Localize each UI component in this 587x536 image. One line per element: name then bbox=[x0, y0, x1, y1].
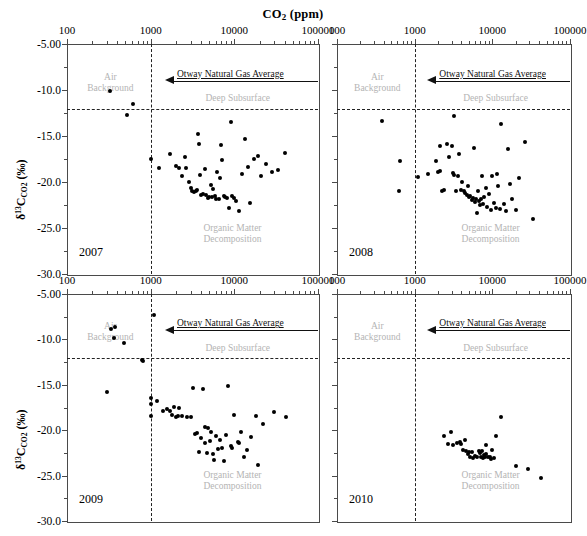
x-axis-minor-tick bbox=[558, 291, 559, 294]
x-axis-minor-tick bbox=[293, 291, 294, 294]
data-point bbox=[494, 434, 498, 438]
y-axis-minor-tick bbox=[64, 251, 67, 252]
x-axis-minor-tick bbox=[125, 291, 126, 294]
data-point bbox=[490, 448, 494, 452]
otway-arrow-head-icon bbox=[165, 326, 174, 334]
y-axis-tick bbox=[62, 476, 67, 477]
x-axis-minor-tick bbox=[539, 41, 540, 44]
data-point bbox=[196, 132, 200, 136]
data-point bbox=[475, 211, 479, 215]
x-axis-minor-tick bbox=[143, 291, 144, 294]
data-point bbox=[426, 172, 430, 176]
data-point bbox=[506, 147, 510, 151]
data-point bbox=[449, 430, 453, 434]
data-point bbox=[492, 201, 496, 205]
data-point bbox=[264, 162, 268, 166]
data-point bbox=[499, 122, 503, 126]
x-axis-tick bbox=[570, 289, 571, 294]
x-axis-minor-tick bbox=[107, 41, 108, 44]
y-axis-label-bottom-row: δ13CCO2 (‰) bbox=[14, 410, 29, 470]
data-point bbox=[256, 463, 260, 467]
data-point bbox=[490, 174, 494, 178]
y-axis-minor-tick bbox=[64, 408, 67, 409]
x-axis-minor-tick bbox=[384, 291, 385, 294]
x-axis-minor-tick bbox=[461, 41, 462, 44]
data-point bbox=[463, 438, 467, 442]
data-point bbox=[447, 155, 451, 159]
data-point bbox=[498, 207, 502, 211]
data-point bbox=[457, 152, 461, 156]
data-point bbox=[218, 176, 222, 180]
y-axis-tick bbox=[62, 44, 67, 45]
data-point bbox=[227, 206, 231, 210]
x-axis-minor-tick bbox=[452, 41, 453, 44]
x-axis-tick-label: 1000 bbox=[140, 274, 162, 286]
data-point bbox=[197, 142, 201, 146]
y-axis-tick-label: -20.0 bbox=[19, 424, 61, 436]
x-axis-minor-tick bbox=[293, 41, 294, 44]
y-axis-tick bbox=[332, 294, 337, 295]
data-point bbox=[245, 448, 249, 452]
data-point bbox=[212, 458, 216, 462]
y-axis-tick bbox=[62, 294, 67, 295]
data-point bbox=[230, 446, 234, 450]
x-axis-minor-tick bbox=[147, 291, 148, 294]
x-axis-tick bbox=[234, 289, 235, 294]
y-axis-tick bbox=[62, 521, 67, 522]
deep-subsurface-hline bbox=[337, 109, 570, 110]
otway-average-line bbox=[436, 330, 570, 331]
x-axis-minor-tick bbox=[92, 41, 93, 44]
x-axis-minor-tick bbox=[132, 291, 133, 294]
data-point bbox=[476, 189, 480, 193]
data-point bbox=[434, 159, 438, 163]
y-axis-tick bbox=[332, 90, 337, 91]
x-axis-tick bbox=[318, 39, 319, 44]
y-axis-tick bbox=[62, 385, 67, 386]
x-axis-minor-tick bbox=[117, 291, 118, 294]
otway-arrow-head-icon bbox=[427, 76, 436, 84]
x-axis-minor-tick bbox=[209, 41, 210, 44]
data-point bbox=[452, 114, 456, 118]
data-point bbox=[276, 168, 280, 172]
data-point bbox=[211, 187, 215, 191]
x-axis-minor-tick bbox=[299, 41, 300, 44]
x-axis-minor-tick bbox=[138, 291, 139, 294]
y-axis-minor-tick bbox=[334, 317, 337, 318]
x-axis-minor-tick bbox=[547, 41, 548, 44]
data-point bbox=[526, 467, 530, 471]
data-point bbox=[112, 336, 116, 340]
x-axis-minor-tick bbox=[216, 41, 217, 44]
x-axis-minor-tick bbox=[469, 291, 470, 294]
deep-subsurface: Deep Subsurface bbox=[205, 342, 270, 353]
y-axis-minor-tick bbox=[334, 205, 337, 206]
data-point bbox=[226, 384, 230, 388]
y-axis-minor-tick bbox=[334, 453, 337, 454]
data-point bbox=[438, 169, 442, 173]
data-point bbox=[208, 439, 212, 443]
x-axis-minor-tick bbox=[92, 291, 93, 294]
data-point bbox=[149, 402, 153, 406]
data-point bbox=[191, 386, 195, 390]
data-point bbox=[203, 441, 207, 445]
data-point bbox=[197, 450, 201, 454]
data-point bbox=[514, 208, 518, 212]
data-point bbox=[141, 359, 145, 363]
x-axis-minor-tick bbox=[562, 291, 563, 294]
otway-average-label: Otway Natural Gas Average bbox=[439, 318, 546, 328]
otway-arrow-head-icon bbox=[165, 76, 174, 84]
data-point bbox=[456, 174, 460, 178]
x-axis-minor-tick bbox=[360, 41, 361, 44]
x-axis-minor-tick bbox=[553, 41, 554, 44]
x-axis-minor-tick bbox=[132, 41, 133, 44]
x-axis-minor-tick bbox=[221, 291, 222, 294]
x-axis-minor-tick bbox=[391, 291, 392, 294]
x-axis-minor-tick bbox=[374, 41, 375, 44]
x-axis-minor-tick bbox=[231, 41, 232, 44]
data-point bbox=[270, 170, 274, 174]
data-point bbox=[177, 406, 181, 410]
data-point bbox=[122, 341, 126, 345]
otway-average-label: Otway Natural Gas Average bbox=[177, 69, 284, 79]
y-axis-minor-tick bbox=[334, 159, 337, 160]
data-point bbox=[495, 172, 499, 176]
data-point bbox=[472, 146, 476, 150]
